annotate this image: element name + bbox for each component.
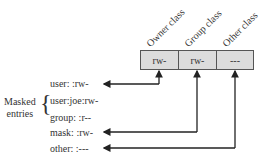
arrows <box>0 0 266 166</box>
acl-mask-diagram: Owner class Group class Other class rw- … <box>0 0 266 166</box>
